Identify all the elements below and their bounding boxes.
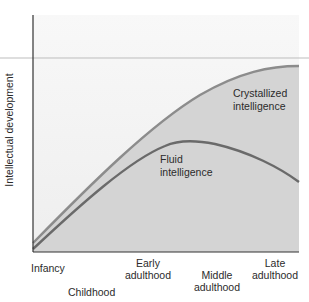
y-axis-title: Intellectual development [3, 55, 15, 205]
x-tick-middle-adulthood: Middle adulthood [187, 269, 247, 293]
x-tick-early-line1: Early [118, 257, 178, 269]
x-tick-late-line2: adulthood [245, 269, 305, 281]
crystallized-label-line2: intelligence [233, 100, 287, 113]
x-tick-early-adulthood: Early adulthood [118, 257, 178, 281]
x-tick-childhood: Childhood [68, 286, 115, 298]
fluid-label-line2: intelligence [160, 166, 213, 179]
x-tick-middle-line1: Middle [187, 269, 247, 281]
crystallized-label: Crystallized intelligence [233, 87, 287, 113]
chart: Intellectual development Crystallized in… [0, 0, 309, 302]
x-tick-early-line2: adulthood [118, 269, 178, 281]
x-tick-late-adulthood: Late adulthood [245, 257, 305, 281]
fluid-label: Fluid intelligence [160, 153, 213, 179]
x-tick-middle-line2: adulthood [187, 281, 247, 293]
x-tick-late-line1: Late [245, 257, 305, 269]
fluid-label-line1: Fluid [160, 153, 213, 166]
crystallized-label-line1: Crystallized [233, 87, 287, 100]
x-tick-infancy: Infancy [31, 262, 65, 274]
